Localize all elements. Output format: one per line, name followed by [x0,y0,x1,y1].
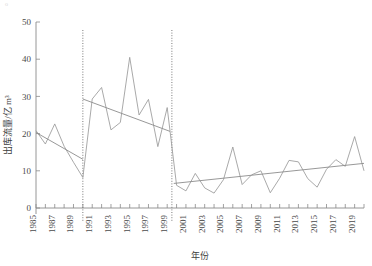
x-tick-label: 2001 [178,215,188,233]
x-tick-label: 1993 [103,215,113,234]
x-tick-label: 1991 [84,215,94,233]
breakpoint-line-group [83,30,172,222]
trend-1990-1999 [83,99,170,131]
x-tick-label: 2005 [215,215,225,234]
y-tick-label-group: 01020304050 [22,17,32,213]
y-tick-label: 30 [22,92,32,102]
x-tick-label: 2011 [272,215,282,233]
line-chart-canvas: 01020304050 1985198719891991199319951997… [0,0,372,266]
x-tick-label-group: 1985198719891991199319951997199920012003… [28,215,357,234]
x-tick-label: 1997 [140,215,150,234]
x-tick-group [36,204,364,208]
y-axis-title: 出库流量/亿 m³ [2,95,13,155]
trend-1985-1990 [36,132,83,159]
y-tick-label: 0 [27,203,32,213]
x-tick-label: 2017 [328,215,338,234]
y-tick-group [36,22,40,208]
x-tick-label: 1987 [47,215,57,234]
trend-line-group [36,99,364,183]
y-axis-group: 01020304050 [22,17,40,214]
x-tick-label: 1985 [28,215,38,234]
discharge-series-line [36,57,364,193]
x-tick-label: 1995 [122,215,132,234]
chart-figure: о 01020304050 19851987198919911993199519… [0,0,372,266]
x-tick-label: 2013 [290,215,300,234]
x-tick-label: 2019 [347,215,357,234]
y-tick-label: 40 [22,54,32,64]
x-tick-label: 2007 [234,215,244,234]
y-tick-label: 50 [22,17,32,27]
x-axis-group: 1985198719891991199319951997199920012003… [28,204,364,233]
x-tick-label: 1989 [65,215,75,234]
y-tick-label: 20 [22,129,32,139]
x-tick-label: 2015 [309,215,319,234]
corner-artifact-mark: о [5,1,8,7]
x-axis-title: 年份 [191,250,209,261]
x-tick-label: 2003 [197,215,207,234]
x-tick-label: 1999 [159,215,169,234]
y-tick-label: 10 [22,166,32,176]
trend-2000-2020 [174,163,364,183]
x-tick-label: 2009 [253,215,263,234]
